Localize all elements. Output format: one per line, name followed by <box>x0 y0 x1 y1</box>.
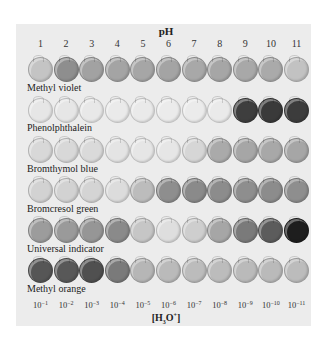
indicator-well <box>130 218 155 243</box>
indicator-well <box>207 178 232 203</box>
ph-label-11: 11 <box>287 38 307 49</box>
indicator-well <box>207 57 232 82</box>
indicator-well <box>28 258 53 283</box>
indicator-well <box>233 98 258 123</box>
indicator-well <box>54 98 79 123</box>
indicator-label: Methyl orange <box>27 283 86 294</box>
concentration-label: 10−9 <box>232 300 258 310</box>
ph-label-3: 3 <box>82 38 102 49</box>
indicator-well <box>233 138 258 163</box>
indicator-well <box>284 98 309 123</box>
indicator-well <box>182 218 207 243</box>
indicator-well <box>28 178 53 203</box>
concentration-label: 10−3 <box>79 300 105 310</box>
concentration-label: 10−4 <box>104 300 130 310</box>
indicator-well <box>130 138 155 163</box>
indicator-label: Phenolphthalein <box>27 122 92 133</box>
ph-axis-title: pH <box>0 25 332 37</box>
ph-label-4: 4 <box>107 38 127 49</box>
indicator-well <box>182 138 207 163</box>
indicator-well <box>233 178 258 203</box>
indicator-well <box>258 218 283 243</box>
ph-label-5: 5 <box>133 38 153 49</box>
indicator-well <box>130 258 155 283</box>
indicator-well <box>54 178 79 203</box>
concentration-label: 10−11 <box>284 300 310 310</box>
ph-label-10: 10 <box>261 38 281 49</box>
indicator-well <box>182 98 207 123</box>
indicator-well <box>258 98 283 123</box>
concentration-label: 10−7 <box>181 300 207 310</box>
indicator-well <box>105 178 130 203</box>
indicator-well <box>182 258 207 283</box>
indicator-well <box>233 57 258 82</box>
indicator-well <box>284 57 309 82</box>
indicator-well <box>156 138 181 163</box>
indicator-well <box>156 98 181 123</box>
indicator-well <box>79 138 104 163</box>
indicator-well <box>207 138 232 163</box>
indicator-well <box>130 57 155 82</box>
indicator-well <box>28 138 53 163</box>
indicator-well <box>284 138 309 163</box>
indicator-well <box>54 138 79 163</box>
indicator-well <box>207 98 232 123</box>
indicator-well <box>105 258 130 283</box>
h3o-axis-title: [H3O+] <box>0 312 332 325</box>
indicator-well <box>79 57 104 82</box>
concentration-label: 10−2 <box>53 300 79 310</box>
indicator-well <box>105 98 130 123</box>
indicator-well <box>28 57 53 82</box>
indicator-well <box>156 178 181 203</box>
concentration-label: 10−10 <box>258 300 284 310</box>
ph-label-9: 9 <box>235 38 255 49</box>
indicator-well <box>233 218 258 243</box>
indicator-well <box>105 57 130 82</box>
indicator-well <box>258 57 283 82</box>
concentration-label: 10−1 <box>28 300 54 310</box>
indicator-label: Bromcresol green <box>27 203 98 214</box>
indicator-well <box>182 57 207 82</box>
indicator-well <box>233 258 258 283</box>
concentration-label: 10−6 <box>156 300 182 310</box>
indicator-well <box>79 98 104 123</box>
indicator-well <box>207 258 232 283</box>
indicator-well <box>130 98 155 123</box>
ph-label-2: 2 <box>56 38 76 49</box>
indicator-well <box>28 218 53 243</box>
concentration-label: 10−8 <box>207 300 233 310</box>
indicator-well <box>156 57 181 82</box>
indicator-well <box>28 98 53 123</box>
indicator-well <box>284 258 309 283</box>
indicator-well <box>79 178 104 203</box>
indicator-well <box>207 218 232 243</box>
indicator-well <box>258 138 283 163</box>
indicator-well <box>156 218 181 243</box>
indicator-label: Methyl violet <box>27 82 81 93</box>
indicator-well <box>130 178 155 203</box>
indicator-well <box>105 138 130 163</box>
indicator-well <box>284 178 309 203</box>
ph-label-7: 7 <box>184 38 204 49</box>
indicator-label: Universal indicator <box>27 243 104 254</box>
indicator-well <box>258 258 283 283</box>
concentration-label: 10−5 <box>130 300 156 310</box>
indicator-well <box>156 258 181 283</box>
indicator-well <box>54 57 79 82</box>
indicator-well <box>54 218 79 243</box>
indicator-well <box>79 258 104 283</box>
indicator-well <box>79 218 104 243</box>
indicator-well <box>182 178 207 203</box>
indicator-well <box>54 258 79 283</box>
ph-label-1: 1 <box>31 38 51 49</box>
ph-label-8: 8 <box>210 38 230 49</box>
indicator-well <box>258 178 283 203</box>
indicator-well <box>105 218 130 243</box>
indicator-well <box>284 218 309 243</box>
indicator-label: Bromthymol blue <box>27 163 98 174</box>
ph-label-6: 6 <box>159 38 179 49</box>
